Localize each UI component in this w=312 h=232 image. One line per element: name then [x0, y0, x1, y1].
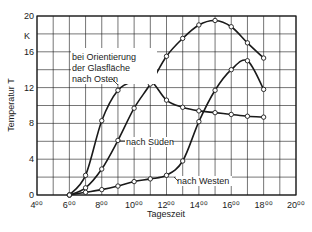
data-point-marker	[213, 18, 217, 22]
x-tick-label: 6⁰⁰	[63, 200, 76, 210]
x-axis-title: Tageszeit	[147, 209, 186, 219]
data-point-marker	[148, 177, 152, 181]
data-point-marker	[261, 56, 265, 60]
data-point-marker	[164, 173, 168, 177]
x-tick-label: 20⁰⁰	[287, 200, 305, 210]
data-point-marker	[100, 167, 104, 171]
data-point-marker	[229, 25, 233, 29]
x-tick-label: 4⁰⁰	[30, 200, 43, 210]
data-point-marker	[180, 159, 184, 163]
tick-labels: 4⁰⁰6⁰⁰8⁰⁰10⁰⁰12⁰⁰14⁰⁰16⁰⁰18⁰⁰20⁰⁰0481216…	[24, 11, 305, 210]
y-axis-title: Temperatur T	[6, 78, 16, 132]
data-point-marker	[245, 59, 249, 63]
x-tick-label: 16⁰⁰	[222, 200, 240, 210]
y-tick-label: 16	[24, 47, 34, 57]
data-point-marker	[116, 184, 120, 188]
y-tick-label: 8	[29, 118, 34, 128]
y-unit-label: K	[24, 31, 30, 41]
data-point-marker	[116, 138, 120, 142]
data-point-marker	[245, 41, 249, 45]
data-point-marker	[213, 110, 217, 114]
annotation-osten-line3: nach Osten	[72, 74, 118, 84]
data-point-marker	[100, 119, 104, 123]
annotation-westen: nach Westen	[177, 176, 229, 186]
x-tick-label: 8⁰⁰	[95, 200, 108, 210]
data-point-marker	[261, 87, 265, 91]
data-point-marker	[132, 106, 136, 110]
data-point-marker	[100, 187, 104, 191]
data-point-marker	[180, 105, 184, 109]
data-point-marker	[197, 23, 201, 27]
x-tick-label: 14⁰⁰	[190, 200, 208, 210]
data-point-marker	[261, 115, 265, 119]
data-point-marker	[197, 119, 201, 123]
data-point-marker	[67, 193, 71, 197]
data-point-marker	[83, 190, 87, 194]
data-point-marker	[164, 98, 168, 102]
grid	[37, 16, 296, 195]
x-tick-label: 10⁰⁰	[125, 200, 143, 210]
annotation-sueden: nach Süden	[126, 137, 174, 147]
data-point-marker	[197, 109, 201, 113]
y-tick-label: 20	[24, 11, 34, 21]
y-tick-label: 12	[24, 83, 34, 93]
data-point-marker	[83, 186, 87, 190]
data-point-marker	[229, 112, 233, 116]
data-point-marker	[116, 88, 120, 92]
x-tick-label: 18⁰⁰	[255, 200, 273, 210]
data-point-marker	[180, 36, 184, 40]
data-point-marker	[229, 68, 233, 72]
annotation-osten-line1: bei Orientierung	[72, 52, 136, 62]
data-point-marker	[245, 114, 249, 118]
annotation-osten-line2: der Glasfläche	[72, 63, 130, 73]
data-point-marker	[83, 173, 87, 177]
y-tick-label: 0	[29, 190, 34, 200]
temperature-chart: 4⁰⁰6⁰⁰8⁰⁰10⁰⁰12⁰⁰14⁰⁰16⁰⁰18⁰⁰20⁰⁰0481216…	[0, 0, 312, 232]
data-point-marker	[132, 179, 136, 183]
y-tick-label: 4	[29, 154, 34, 164]
data-point-marker	[164, 54, 168, 58]
data-point-marker	[213, 88, 217, 92]
